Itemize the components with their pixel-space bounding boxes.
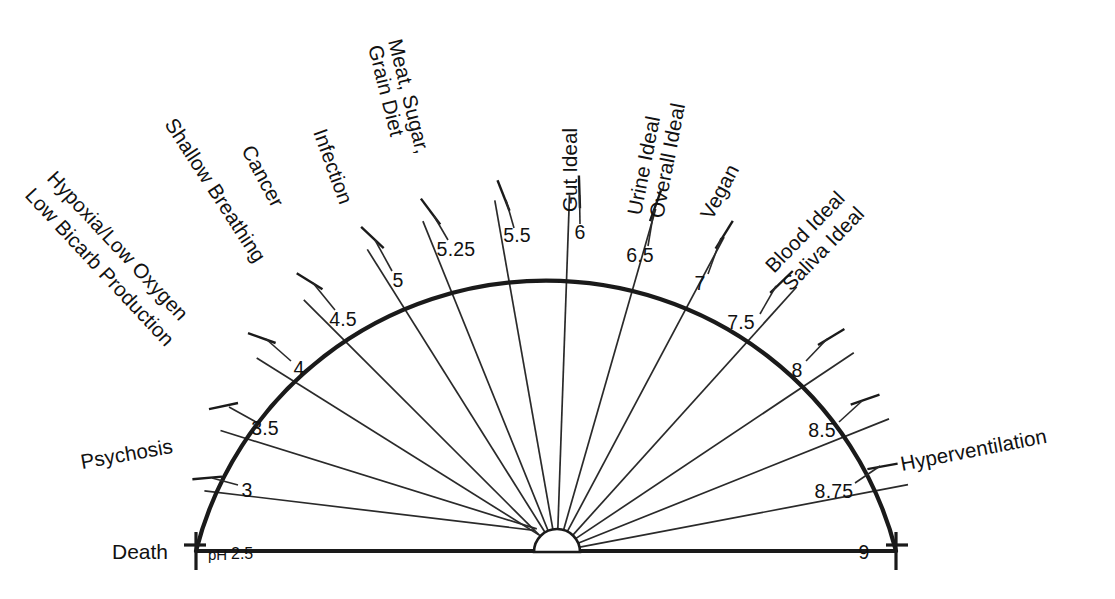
arc-tick-8.5: [851, 395, 880, 405]
tick-label-4.5: 4.5: [329, 308, 357, 330]
spoke-8: [576, 353, 854, 539]
tick-label-5.25: 5.25: [437, 238, 476, 260]
arc-tick-4.5: [297, 273, 323, 289]
leader-7.5: [760, 286, 776, 314]
leader-4: [266, 339, 291, 361]
tick-label-5: 5: [392, 269, 403, 291]
label-psychosis: Psychosis: [79, 434, 175, 473]
arc-tick-8.75: [867, 464, 897, 470]
spoke-4: [257, 358, 539, 535]
tick-label-2.5: 2.5: [231, 545, 253, 562]
tick-label-8.5: 8.5: [808, 419, 836, 441]
arc-tick-3.5: [209, 403, 238, 409]
category-label-group: Death Psychosis Hypoxia/Low Oxygen Low B…: [21, 36, 1049, 563]
spoke-5.5: [495, 200, 553, 530]
leader-8.5: [839, 401, 862, 422]
label-cancer: Cancer: [237, 141, 289, 211]
ph-prefix-label: pH: [208, 546, 227, 563]
tick-label-7: 7: [694, 272, 705, 294]
ph-dial-svg: pH 2.5 3 3.5 4 4.5 5 5.25 5.5 6 6.5 7 7.…: [0, 0, 1115, 599]
ph-arc: [196, 281, 896, 551]
spoke-5.25: [423, 221, 549, 531]
leader-5.25: [434, 216, 448, 240]
spoke-6: [558, 195, 570, 530]
ph-scale-diagram: pH 2.5 3 3.5 4 4.5 5 5.25 5.5 6 6.5 7 7.…: [0, 0, 1115, 599]
tick-label-4: 4: [293, 357, 304, 379]
tick-label-7.5: 7.5: [727, 311, 755, 333]
tick-label-9: 9: [858, 541, 869, 563]
leader-8: [806, 339, 827, 361]
center-hub: [534, 529, 580, 552]
tick-label-5.5: 5.5: [503, 224, 531, 246]
label-hyperventilation: Hyperventilation: [898, 424, 1048, 475]
tick-label-8.75: 8.75: [815, 480, 854, 502]
tick-leader-group: [212, 195, 880, 485]
label-infection: Infection: [309, 126, 357, 208]
tick-label-6: 6: [574, 221, 585, 243]
tick-label-3.5: 3.5: [251, 417, 279, 439]
spoke-4.5: [304, 300, 541, 537]
leader-4.5: [313, 283, 335, 310]
label-gut-ideal: Gut Ideal: [558, 128, 581, 212]
spoke-8.75: [580, 485, 908, 548]
label-vegan: Vegan: [695, 160, 743, 223]
tick-label-3: 3: [241, 479, 252, 501]
tick-label-8: 8: [791, 359, 802, 381]
leader-7: [708, 238, 721, 274]
label-death: Death: [112, 540, 168, 563]
arc-tick-8: [818, 329, 844, 345]
arc-tick-4: [248, 333, 276, 343]
tick-label-6.5: 6.5: [626, 244, 654, 266]
arc-tick-group: [192, 176, 897, 480]
arc-tick-5: [361, 227, 384, 248]
label-shallow-breathing: Shallow Breathing: [161, 114, 271, 267]
spoke-3: [204, 491, 534, 531]
spoke-7.5: [572, 287, 796, 536]
